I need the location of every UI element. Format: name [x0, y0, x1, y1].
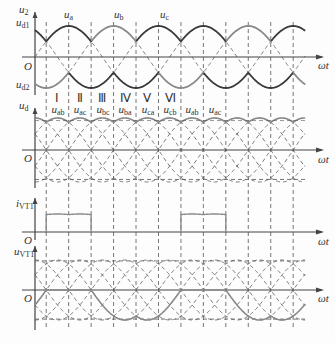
segment-label: uac [209, 104, 222, 117]
ud2-envelope [293, 73, 305, 85]
ivt1-axis-label: iVT1 [16, 198, 34, 211]
origin-label-4: O [24, 292, 32, 304]
uvt1-voltage-waveform [35, 290, 305, 320]
segment-label: uab [51, 104, 64, 117]
ub-label: ub [114, 9, 124, 22]
ud-axis-label: ud [19, 100, 29, 113]
omega-t-label-2: ωt [318, 154, 329, 165]
panel-ivt1-x-arrow-icon [316, 230, 324, 235]
uc-label: uc [160, 9, 169, 22]
ivt1-current-pulse [46, 214, 91, 232]
panel-ud-y-arrow-icon [33, 108, 38, 114]
origin-label-3: O [24, 234, 32, 246]
ua-label: ua [64, 9, 73, 22]
segment-label: uab [185, 104, 198, 117]
omega-t-label-1: ωt [318, 60, 329, 71]
segment-label: uac [74, 104, 87, 117]
ivt1-current-pulse [181, 214, 226, 232]
segment-label: uca [142, 104, 155, 117]
panel-u2-y-arrow-icon [33, 12, 38, 18]
origin-label-2: O [24, 152, 32, 164]
ud-output-waveform [35, 118, 305, 122]
segment-label: uba [118, 104, 131, 117]
panel-ud-x-arrow-icon [316, 148, 324, 153]
segment-label: ucb [163, 104, 176, 117]
waveform-plot [0, 0, 335, 343]
omega-t-label-4: ωt [318, 293, 329, 304]
segment-label: ubc [96, 104, 109, 117]
ud2-envelope [35, 72, 69, 88]
omega-t-label-3: ωt [318, 236, 329, 247]
ud1-label: ud1 [16, 17, 30, 30]
ud1-envelope [271, 26, 305, 41]
ud2-label: ud2 [16, 79, 30, 92]
ud1-envelope [35, 30, 47, 42]
uvt1-axis-label: uVT1 [14, 246, 34, 259]
origin-label-1: O [24, 60, 32, 72]
rectifier-waveform-diagram: u2 ud1 ua ub uc O ud2 ωt Ⅰ Ⅱ Ⅲ Ⅳ Ⅴ Ⅵ ud … [0, 0, 335, 343]
